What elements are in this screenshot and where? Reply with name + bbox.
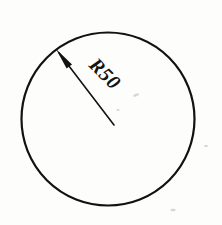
radius-dimension-label: R50 (84, 53, 125, 94)
technical-drawing-canvas: R50 (0, 0, 222, 225)
circle-outline (22, 33, 195, 206)
arrowhead-icon (56, 49, 72, 69)
drawing-surface: R50 (0, 0, 222, 225)
